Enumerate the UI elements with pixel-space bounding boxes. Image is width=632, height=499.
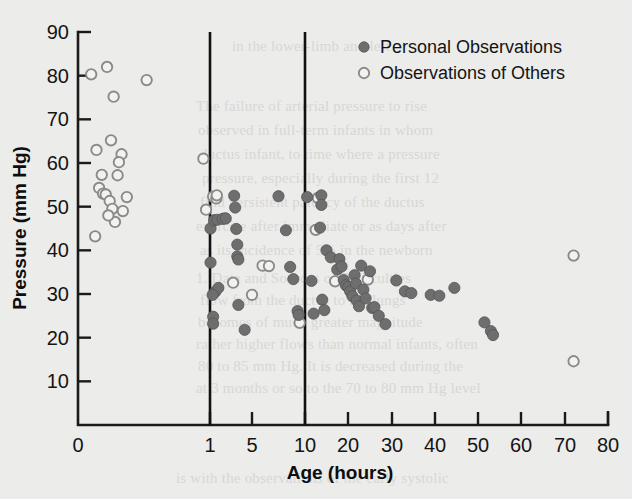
data-point-filled xyxy=(233,299,244,310)
data-point-filled xyxy=(391,275,402,286)
legend-label: Personal Observations xyxy=(380,37,562,57)
data-point-filled xyxy=(231,223,242,234)
data-point-filled xyxy=(449,282,460,293)
data-point-open xyxy=(86,69,96,79)
legend-label: Observations of Others xyxy=(380,63,565,83)
x-tick-label: 40 xyxy=(424,434,446,456)
data-point-open xyxy=(103,210,113,220)
data-point-open xyxy=(198,153,208,163)
data-point-filled xyxy=(229,190,240,201)
y-tick-label: 30 xyxy=(47,283,69,305)
data-point-open xyxy=(201,205,211,215)
y-tick-label: 40 xyxy=(47,239,69,261)
data-point-filled xyxy=(319,305,330,316)
y-tick-label: 80 xyxy=(47,65,69,87)
y-tick-label: 60 xyxy=(47,152,69,174)
x-axis-label: Age (hours) xyxy=(287,462,394,483)
x-tick-label: 1 xyxy=(204,434,215,456)
data-point-filled xyxy=(487,329,498,340)
data-point-filled xyxy=(239,324,250,335)
x-tick-label: 0 xyxy=(72,434,83,456)
data-point-filled xyxy=(316,199,327,210)
x-tick-label: 70 xyxy=(554,434,576,456)
data-point-filled xyxy=(308,308,319,319)
data-point-filled xyxy=(205,257,216,268)
data-point-filled xyxy=(280,225,291,236)
data-point-filled xyxy=(273,191,284,202)
x-tick-label: 60 xyxy=(510,434,532,456)
data-point-filled xyxy=(232,239,243,250)
data-point-filled xyxy=(208,318,219,329)
data-point-filled xyxy=(360,293,371,304)
data-point-filled xyxy=(207,289,218,300)
x-axis-ticks: 0151020304050607080 xyxy=(72,412,619,456)
data-point-filled xyxy=(406,288,417,299)
y-tick-label: 10 xyxy=(47,370,69,392)
data-point-filled xyxy=(380,319,391,330)
data-point-open xyxy=(264,261,274,271)
data-point-filled xyxy=(364,266,375,277)
data-point-open xyxy=(91,145,101,155)
data-point-filled xyxy=(233,254,244,265)
data-point-filled xyxy=(306,275,317,286)
y-axis-label: Pressure (mm Hg) xyxy=(9,146,30,310)
plot-canvas: 0151020304050607080 102030405060708090 P… xyxy=(0,0,632,499)
x-tick-label: 50 xyxy=(467,434,489,456)
data-point-filled xyxy=(288,274,299,285)
y-tick-label: 90 xyxy=(47,21,69,43)
scatter-plot-figure: in the lower-limb and leftThe failure of… xyxy=(0,0,632,499)
axis-frame xyxy=(78,32,608,425)
y-tick-label: 70 xyxy=(47,108,69,130)
plot-legend: Personal ObservationsObservations of Oth… xyxy=(359,37,565,83)
data-point-open xyxy=(568,250,578,260)
data-point-open xyxy=(228,277,238,287)
data-point-filled xyxy=(220,213,231,224)
data-point-filled xyxy=(285,261,296,272)
x-tick-label: 10 xyxy=(294,434,316,456)
data-point-open xyxy=(97,170,107,180)
y-tick-label: 50 xyxy=(47,196,69,218)
data-points xyxy=(86,62,579,367)
data-point-open xyxy=(122,192,132,202)
data-point-open xyxy=(247,290,257,300)
data-point-filled xyxy=(302,191,313,202)
legend-marker-open xyxy=(359,68,369,78)
data-point-filled xyxy=(314,222,325,233)
data-point-filled xyxy=(434,290,445,301)
data-point-filled xyxy=(230,202,241,213)
y-axis-ticks: 102030405060708090 xyxy=(47,21,91,392)
x-tick-label: 80 xyxy=(597,434,619,456)
data-point-open xyxy=(141,75,151,85)
data-point-open xyxy=(114,157,124,167)
data-point-open xyxy=(118,206,128,216)
data-point-open xyxy=(90,231,100,241)
data-point-open xyxy=(568,356,578,366)
data-point-open xyxy=(112,170,122,180)
data-point-filled xyxy=(293,309,304,320)
legend-marker-filled xyxy=(359,42,369,52)
data-point-filled xyxy=(317,294,328,305)
x-tick-label: 30 xyxy=(381,434,403,456)
data-point-filled xyxy=(336,261,347,272)
y-tick-label: 20 xyxy=(47,327,69,349)
data-point-open xyxy=(212,190,222,200)
x-tick-label: 5 xyxy=(246,434,257,456)
data-point-open xyxy=(108,91,118,101)
x-tick-label: 20 xyxy=(337,434,359,456)
data-point-open xyxy=(102,62,112,72)
data-point-open xyxy=(106,135,116,145)
